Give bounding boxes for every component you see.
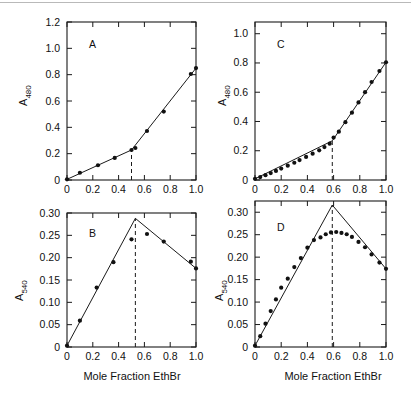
svg-text:0.2: 0.2: [274, 183, 289, 195]
panel-c-plot: 00.20.40.60.81.000.20.40.60.81.0C: [205, 0, 411, 200]
panel-b: A540 00.20.40.60.81.000.050.100.150.200.…: [0, 195, 206, 407]
svg-text:D: D: [277, 221, 285, 233]
svg-text:0.2: 0.2: [85, 183, 100, 195]
svg-text:0.20: 0.20: [40, 251, 61, 263]
svg-text:0.2: 0.2: [274, 350, 289, 362]
svg-text:1.0: 1.0: [45, 42, 60, 54]
svg-text:0.4: 0.4: [300, 183, 315, 195]
svg-text:0.6: 0.6: [137, 350, 152, 362]
panel-b-x-axis-label: Mole Fraction EthBr: [62, 370, 202, 382]
svg-text:0.30: 0.30: [228, 206, 249, 218]
svg-text:0.8: 0.8: [163, 183, 178, 195]
panel-a: A480 00.20.40.60.81.000.20.40.60.81.01.2…: [0, 0, 206, 200]
svg-text:0.6: 0.6: [326, 350, 341, 362]
svg-text:0.05: 0.05: [228, 318, 249, 330]
svg-text:0.8: 0.8: [352, 350, 367, 362]
svg-text:0.05: 0.05: [40, 318, 61, 330]
panel-d-x-axis-label: Mole Fraction EthBr: [263, 370, 403, 382]
panel-d-y-axis-label-sub: 540: [220, 280, 229, 293]
panel-c-y-axis-label-base: A: [216, 99, 228, 106]
svg-text:0.8: 0.8: [45, 68, 60, 80]
panel-d-plot: 00.20.40.60.81.000.050.100.150.200.250.3…: [205, 195, 411, 390]
svg-text:0: 0: [242, 174, 248, 186]
svg-text:B: B: [89, 227, 96, 239]
svg-text:0.15: 0.15: [40, 274, 61, 286]
svg-text:0.20: 0.20: [228, 251, 249, 263]
svg-text:1.0: 1.0: [379, 350, 394, 362]
svg-text:0.8: 0.8: [352, 183, 367, 195]
figure-panel-grid: A480 00.20.40.60.81.000.20.40.60.81.01.2…: [0, 0, 411, 407]
svg-text:0.4: 0.4: [111, 350, 126, 362]
svg-text:0.4: 0.4: [300, 350, 315, 362]
svg-text:C: C: [277, 38, 285, 50]
panel-b-plot: 00.20.40.60.81.000.050.100.150.200.250.3…: [0, 195, 206, 390]
svg-text:1.0: 1.0: [189, 350, 204, 362]
svg-text:0: 0: [242, 341, 248, 353]
svg-text:0.6: 0.6: [137, 183, 152, 195]
panel-c-y-axis-label: A480: [216, 73, 231, 119]
svg-text:1.0: 1.0: [233, 27, 248, 39]
svg-text:0: 0: [54, 341, 60, 353]
svg-text:0.2: 0.2: [45, 147, 60, 159]
svg-text:1.0: 1.0: [379, 183, 394, 195]
panel-a-y-axis-label: A480: [17, 73, 32, 119]
panel-b-y-axis-label: A540: [13, 268, 28, 314]
svg-text:0: 0: [252, 350, 258, 362]
panel-c: A480 00.20.40.60.81.000.20.40.60.81.0C: [205, 0, 411, 200]
svg-text:1.0: 1.0: [189, 183, 204, 195]
svg-text:0: 0: [64, 350, 70, 362]
panel-d-y-axis-label: A540: [213, 268, 228, 314]
svg-text:0.6: 0.6: [326, 183, 341, 195]
svg-text:0.2: 0.2: [233, 144, 248, 156]
svg-text:1.2: 1.2: [45, 16, 60, 28]
svg-text:0: 0: [64, 183, 70, 195]
svg-text:0.4: 0.4: [233, 115, 248, 127]
svg-text:0.4: 0.4: [45, 121, 60, 133]
svg-text:0.4: 0.4: [111, 183, 126, 195]
svg-text:0.15: 0.15: [228, 273, 249, 285]
svg-text:A: A: [89, 38, 96, 50]
svg-text:0: 0: [54, 174, 60, 186]
svg-text:0.30: 0.30: [40, 207, 61, 219]
panel-b-y-axis-label-sub: 540: [20, 280, 29, 293]
panel-b-y-axis-label-base: A: [13, 294, 25, 301]
panel-a-y-axis-label-sub: 480: [24, 85, 33, 98]
svg-text:0.8: 0.8: [163, 350, 178, 362]
svg-text:0.6: 0.6: [233, 86, 248, 98]
svg-text:0: 0: [252, 183, 258, 195]
panel-d-y-axis-label-base: A: [213, 294, 225, 301]
svg-text:0.6: 0.6: [45, 95, 60, 107]
panel-c-y-axis-label-sub: 480: [223, 85, 232, 98]
svg-text:0.10: 0.10: [40, 296, 61, 308]
svg-text:0.25: 0.25: [228, 228, 249, 240]
svg-text:0.8: 0.8: [233, 56, 248, 68]
panel-a-y-axis-label-base: A: [17, 99, 29, 106]
svg-text:0.10: 0.10: [228, 296, 249, 308]
svg-text:0.25: 0.25: [40, 229, 61, 241]
panel-d: A540 00.20.40.60.81.000.050.100.150.200.…: [205, 195, 411, 407]
svg-text:0.2: 0.2: [85, 350, 100, 362]
